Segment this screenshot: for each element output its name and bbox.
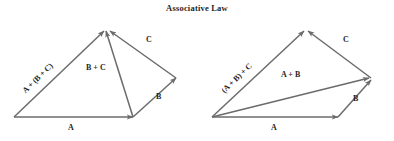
left-label-c: C [146,36,152,44]
left-label-b-plus-c: B + C [86,64,106,72]
right-label-a: A [271,124,277,132]
right-label-b: B [353,95,358,103]
right-vector-c [308,31,371,78]
left-label-a: A [68,124,74,132]
left-vector-resultant [14,31,104,117]
left-vector-b [133,78,176,117]
right-label-c: C [343,36,349,44]
left-vector-c [110,31,176,78]
vector-diagram-canvas [0,0,394,141]
right-label-a-plus-b: A + B [281,71,300,79]
associative-law-figure: Associative Law A B C B + C A + (B + C) [0,0,394,141]
left-label-b: B [156,93,161,101]
